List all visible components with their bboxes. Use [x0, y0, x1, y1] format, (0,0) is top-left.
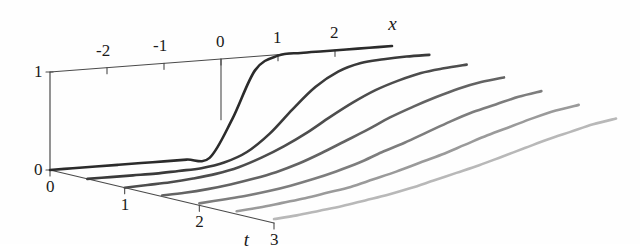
value-tick-label-1: 1 [34, 63, 43, 80]
x-tick-label-0: -2 [96, 42, 110, 59]
value-tick-label-0: 0 [34, 161, 43, 178]
curve-series-3 [162, 77, 504, 195]
t-tick-label-3: 3 [270, 231, 279, 248]
t-tick-label-2: 2 [195, 213, 204, 230]
x-axis-title: x [388, 14, 396, 33]
x-tick-label-2: 0 [216, 33, 225, 50]
x-tick-label-3: 1 [273, 29, 282, 46]
curve-series-5 [237, 105, 579, 211]
curve-series-4 [199, 91, 541, 203]
t-tick-label-0: 0 [46, 178, 55, 195]
x-tick-label-4: 2 [330, 24, 339, 41]
curve-series-6 [274, 119, 616, 219]
axis-layer [46, 46, 392, 229]
x-tick-label-1: -1 [153, 37, 167, 54]
t-axis-title: t [244, 230, 249, 249]
curve-series-2 [125, 65, 467, 188]
t-tick-label-1: 1 [121, 196, 130, 213]
curve-layer [50, 46, 616, 219]
